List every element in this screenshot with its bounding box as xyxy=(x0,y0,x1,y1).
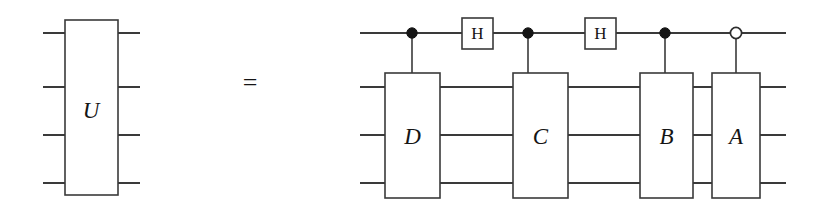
equals-sign: = xyxy=(243,68,258,97)
control-a-dot[interactable] xyxy=(730,27,741,38)
gate-d-label: D xyxy=(403,124,421,149)
gate-b-label: B xyxy=(659,124,673,149)
gate-a-label: A xyxy=(727,124,744,149)
hadamard-gate-1-label: H xyxy=(471,24,483,43)
hadamard-gate-2-label: H xyxy=(594,24,606,43)
left-circuit: U xyxy=(43,20,140,195)
control-d-dot[interactable] xyxy=(407,28,417,38)
figure-canvas: U = DCBAHH xyxy=(0,0,827,212)
gate-c-label: C xyxy=(533,124,549,149)
control-c-dot[interactable] xyxy=(523,28,533,38)
control-b-dot[interactable] xyxy=(660,28,670,38)
gate-u-label: U xyxy=(83,98,101,123)
right-circuit: DCBAHH xyxy=(360,18,786,198)
circuit-diagram: U = DCBAHH xyxy=(0,0,827,212)
